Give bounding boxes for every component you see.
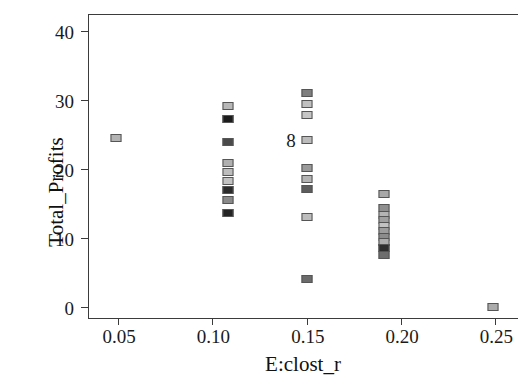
data-point (222, 102, 233, 110)
x-tick: 0.05 (118, 318, 119, 325)
data-point (301, 164, 312, 172)
y-tick-label: 0 (65, 298, 75, 317)
data-point (222, 196, 233, 204)
y-tick: 40 (81, 31, 88, 32)
y-axis-title: Total_Profits (44, 137, 69, 246)
x-tick-label: 0.05 (103, 327, 136, 346)
y-tick: 10 (81, 238, 88, 239)
data-point (222, 138, 233, 146)
data-point (301, 213, 312, 221)
axis-top-border (88, 14, 518, 15)
x-tick-label: 0.25 (480, 327, 513, 346)
y-tick-label: 40 (55, 23, 74, 42)
data-point (301, 185, 312, 193)
x-tick-label: 0.10 (197, 327, 230, 346)
data-point (222, 186, 233, 194)
data-point (222, 177, 233, 185)
y-tick-label: 30 (55, 92, 74, 111)
x-tick-label: 0.20 (385, 327, 418, 346)
y-tick: 20 (81, 169, 88, 170)
x-tick: 0.10 (212, 318, 213, 325)
x-tick: 0.20 (401, 318, 402, 325)
y-tick: 0 (81, 307, 88, 308)
data-point (301, 100, 312, 108)
y-tick: 30 (81, 100, 88, 101)
data-point (111, 134, 122, 142)
data-point (301, 175, 312, 183)
scatter-chart: 010203040 0.050.100.150.200.25 8 Total_P… (0, 0, 520, 384)
axis-left-border (88, 14, 89, 318)
data-point (222, 168, 233, 176)
data-point (301, 136, 312, 144)
data-point (379, 190, 390, 198)
data-point (301, 275, 312, 283)
data-point (222, 115, 233, 123)
axis-bottom-border (88, 318, 518, 319)
data-point (301, 89, 312, 97)
data-point (488, 303, 499, 311)
x-tick-label: 0.15 (291, 327, 324, 346)
data-point (301, 111, 312, 119)
point-annotation-label: 8 (286, 131, 299, 150)
x-tick: 0.15 (307, 318, 308, 325)
data-point (222, 209, 233, 217)
data-point (379, 251, 390, 259)
x-tick: 0.25 (495, 318, 496, 325)
data-point (222, 159, 233, 167)
x-axis-title: E:clost_r (88, 352, 518, 377)
plot-area: 010203040 0.050.100.150.200.25 8 (88, 14, 518, 318)
